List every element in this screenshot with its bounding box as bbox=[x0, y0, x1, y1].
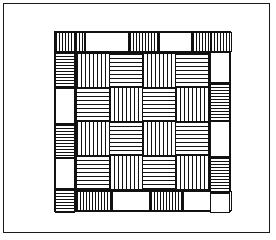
basketweave-cell bbox=[109, 121, 143, 156]
basketweave-cell bbox=[175, 87, 209, 122]
basketweave-cell bbox=[175, 53, 209, 88]
border-segment-left bbox=[55, 124, 75, 158]
basketweave-cell bbox=[142, 155, 176, 190]
border-segment-right bbox=[210, 157, 230, 193]
border-segment-left bbox=[55, 32, 75, 52]
border-segment-bottom bbox=[183, 191, 213, 211]
basketweave-cell bbox=[142, 87, 176, 122]
border-segment-bottom bbox=[150, 191, 183, 211]
basketweave-cell bbox=[76, 121, 110, 156]
border-segment-left bbox=[55, 52, 75, 88]
page-border-frame bbox=[3, 3, 270, 233]
border-segment-left bbox=[55, 88, 75, 124]
border-segment-bottom bbox=[112, 191, 150, 211]
border-segment-top bbox=[75, 32, 85, 52]
border-segment-left bbox=[55, 158, 75, 189]
basketweave-cell bbox=[76, 53, 110, 88]
border-segment-right bbox=[210, 83, 230, 121]
border-segment-right bbox=[210, 52, 230, 83]
border-segment-top bbox=[129, 32, 159, 52]
basketweave-cell bbox=[76, 155, 110, 190]
border-segment-right bbox=[210, 193, 230, 213]
basketweave-cell bbox=[175, 155, 209, 190]
border-segment-top bbox=[85, 32, 129, 52]
basketweave-cell bbox=[109, 87, 143, 122]
basketweave-field bbox=[75, 52, 210, 191]
basketweave-cell bbox=[142, 53, 176, 88]
border-segment-right bbox=[210, 32, 230, 52]
border-segment-left bbox=[55, 189, 75, 213]
border-segment-bottom bbox=[76, 191, 112, 211]
basketweave-cell bbox=[109, 53, 143, 88]
border-segment-top bbox=[159, 32, 192, 52]
basketweave-cell bbox=[76, 87, 110, 122]
border-segment-right bbox=[210, 121, 230, 157]
basketweave-cell bbox=[109, 155, 143, 190]
quilt-block bbox=[54, 31, 231, 212]
basketweave-cell bbox=[175, 121, 209, 156]
basketweave-cell bbox=[142, 121, 176, 156]
